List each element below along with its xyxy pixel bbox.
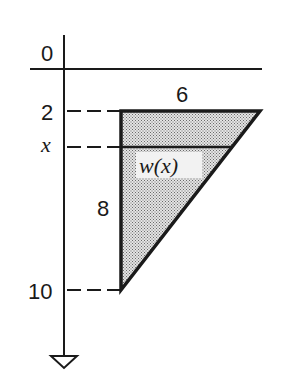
axis-arrow-icon [51, 356, 77, 368]
label-height: 8 [97, 196, 109, 221]
label-depth-10: 10 [28, 279, 52, 304]
label-depth-0: 0 [41, 41, 53, 66]
label-depth-2: 2 [41, 100, 53, 125]
triangular-plate [121, 111, 260, 290]
label-top-width: 6 [176, 82, 188, 107]
label-depth-x: x [40, 132, 51, 157]
label-strip-width: w(x) [139, 153, 178, 178]
diagram-canvas: 0 2 x 10 6 8 w(x) [0, 0, 282, 390]
